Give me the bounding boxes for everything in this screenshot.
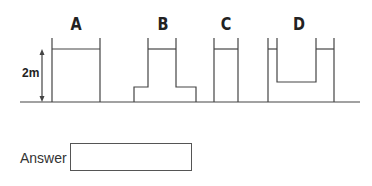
- label-c: C: [221, 14, 232, 34]
- container-b: [134, 38, 196, 102]
- height-arrow: [40, 49, 45, 102]
- label-b: B: [157, 14, 168, 34]
- answer-label: Answer: [20, 150, 67, 166]
- container-d: [268, 38, 334, 102]
- height-label: 2m: [22, 66, 39, 80]
- answer-input[interactable]: [70, 143, 192, 171]
- container-c: [214, 38, 238, 102]
- label-a: A: [70, 14, 81, 34]
- container-a: [52, 38, 100, 102]
- label-d: D: [293, 14, 305, 34]
